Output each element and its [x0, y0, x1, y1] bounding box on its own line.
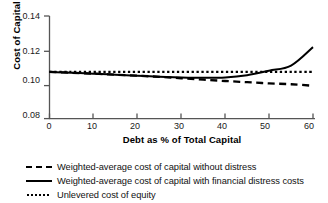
legend-item-wacc-with-distress: Weighted-average cost of capital with fi…: [26, 174, 326, 188]
series-wacc-with-distress: [50, 47, 314, 78]
legend-label-wacc-with-distress: Weighted-average cost of capital with fi…: [57, 176, 304, 186]
dashed-line-marker-icon: [26, 162, 52, 172]
dotted-line-marker-icon: [26, 190, 52, 200]
chart-figure: Cost of Capital 0.14 0.12 0.10 0.08 0 10…: [0, 0, 328, 203]
legend-label-unlevered-cost-of-equity: Unlevered cost of equity: [57, 190, 156, 200]
legend-item-wacc-without-distress: Weighted-average cost of capital without…: [26, 160, 326, 174]
legend-label-wacc-without-distress: Weighted-average cost of capital without…: [57, 162, 256, 172]
legend-item-unlevered-cost-of-equity: Unlevered cost of equity: [26, 188, 326, 202]
solid-line-marker-icon: [26, 176, 52, 186]
chart-legend: Weighted-average cost of capital without…: [26, 160, 326, 202]
